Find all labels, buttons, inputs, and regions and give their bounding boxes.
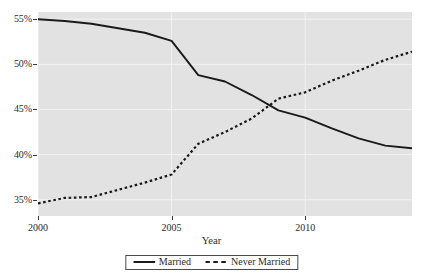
x-tick-label: 2000 xyxy=(18,222,58,233)
legend-item: Never Married xyxy=(205,257,290,267)
y-tick-label: 45% xyxy=(2,104,32,114)
line-chart: 35%40%45%50%55% 200020052010 Year Marrie… xyxy=(0,0,423,279)
y-tick-label: 40% xyxy=(2,150,32,160)
chart-legend: MarriedNever Married xyxy=(125,255,298,270)
y-tick-label: 35% xyxy=(2,195,32,205)
y-tick-mark xyxy=(33,19,37,20)
legend-label: Married xyxy=(159,257,191,267)
y-tick-mark xyxy=(33,109,37,110)
legend-item: Married xyxy=(133,257,191,267)
y-tick-mark xyxy=(33,200,37,201)
x-tick-mark xyxy=(172,216,173,220)
series-lines xyxy=(38,19,412,203)
series-line-married xyxy=(38,19,412,148)
y-tick-label: 55% xyxy=(2,14,32,24)
x-tick-mark xyxy=(305,216,306,220)
x-tick-mark xyxy=(38,216,39,220)
y-tick-mark xyxy=(33,64,37,65)
x-axis-title: Year xyxy=(0,235,423,247)
plot-svg xyxy=(38,12,412,216)
x-tick-label: 2010 xyxy=(285,222,325,233)
y-tick-mark xyxy=(33,155,37,156)
gridlines xyxy=(38,12,412,216)
series-line-never-married xyxy=(38,52,412,204)
y-tick-label: 50% xyxy=(2,59,32,69)
dashed-line-icon xyxy=(205,258,227,266)
legend-label: Never Married xyxy=(231,257,290,267)
x-tick-label: 2005 xyxy=(152,222,192,233)
plot-area xyxy=(38,12,412,216)
solid-line-icon xyxy=(133,258,155,266)
